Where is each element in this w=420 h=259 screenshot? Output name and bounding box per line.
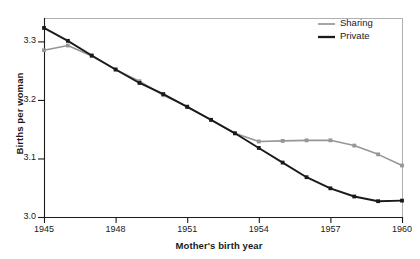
data-point-private: [257, 146, 261, 150]
data-point-private: [352, 195, 356, 199]
data-point-sharing: [376, 152, 380, 156]
series-line-private: [44, 28, 402, 201]
legend-label-private: Private: [340, 30, 370, 41]
data-point-private: [305, 175, 309, 179]
data-point-private: [138, 81, 142, 85]
y-tick-label: 3.1: [10, 152, 36, 162]
data-point-private: [376, 199, 380, 203]
data-point-sharing: [305, 138, 309, 142]
data-point-private: [400, 199, 404, 203]
data-point-sharing: [352, 144, 356, 148]
data-point-private: [329, 186, 333, 190]
data-point-sharing: [66, 44, 70, 48]
x-axis-title: Mother's birth year: [44, 240, 394, 251]
x-tick-label: 1957: [310, 224, 350, 234]
data-point-sharing: [329, 138, 333, 142]
data-point-private: [90, 54, 94, 58]
data-point-private: [281, 161, 285, 165]
x-tick-label: 1945: [24, 224, 64, 234]
data-point-private: [66, 39, 70, 43]
legend-label-sharing: Sharing: [340, 17, 373, 28]
series-line-sharing: [44, 46, 402, 166]
y-tick-label: 3.2: [10, 94, 36, 104]
data-point-sharing: [257, 140, 261, 144]
data-point-private: [114, 68, 118, 72]
x-tick-label: 1960: [382, 224, 420, 234]
x-tick-label: 1948: [96, 224, 136, 234]
y-tick-label: 3.3: [10, 35, 36, 45]
data-point-private: [42, 26, 46, 30]
data-point-sharing: [400, 164, 404, 168]
data-point-private: [161, 92, 165, 96]
data-point-sharing: [281, 139, 285, 143]
data-point-private: [209, 118, 213, 122]
plot-frame: [45, 19, 403, 218]
data-point-sharing: [42, 48, 46, 52]
data-point-private: [185, 105, 189, 109]
x-tick-label: 1951: [167, 224, 207, 234]
x-tick-label: 1954: [239, 224, 279, 234]
chart-container: Births per woman Mother's birth year 3.0…: [0, 0, 420, 259]
y-tick-label: 3.0: [10, 211, 36, 221]
data-point-private: [233, 131, 237, 135]
